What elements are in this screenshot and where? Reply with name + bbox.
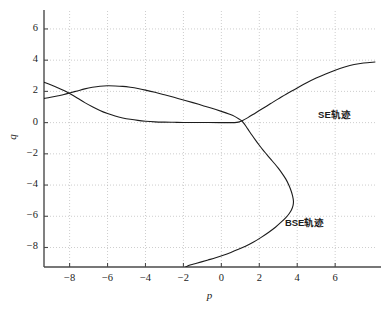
x-axis-tick-label: −6 [93,272,123,283]
chart-figure: 6420−2−4−6−8−8−6−4−20246pqSE轨迹BSE轨迹 [0,0,391,311]
y-axis-tick-label: 6 [12,22,38,33]
y-axis-tick-label: 2 [12,84,38,95]
x-axis-tick-label: −8 [55,272,85,283]
y-axis-tick-label: 4 [12,53,38,64]
y-axis-tick-label: 0 [12,116,38,127]
y-axis-tick-label: −8 [12,240,38,251]
curve-annotation-se: SE轨迹 [318,107,351,121]
x-axis-tick-label: 0 [206,272,236,283]
x-axis-tick-label: 2 [244,272,274,283]
x-axis-tick-label: 6 [320,272,350,283]
y-axis-tick-label: −4 [12,178,38,189]
y-axis-tick-label: −6 [12,209,38,220]
y-axis-tick-label: −2 [12,147,38,158]
x-axis-tick-label: 4 [282,272,312,283]
curve-annotation-bse: BSE轨迹 [285,215,325,229]
y-axis-title: q [6,129,18,145]
x-axis-title: p [200,289,220,301]
plot-canvas [0,0,391,311]
x-axis-tick-label: −2 [168,272,198,283]
x-axis-tick-label: −4 [130,272,160,283]
